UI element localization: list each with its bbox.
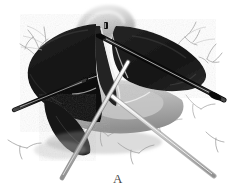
figure-panel: A (0, 0, 236, 189)
surgical-illustration (0, 0, 236, 189)
surgical-clip (104, 22, 108, 29)
panel-label: A (113, 172, 123, 186)
illustration-canvas (0, 0, 236, 189)
figure-caption: A (0, 169, 236, 187)
